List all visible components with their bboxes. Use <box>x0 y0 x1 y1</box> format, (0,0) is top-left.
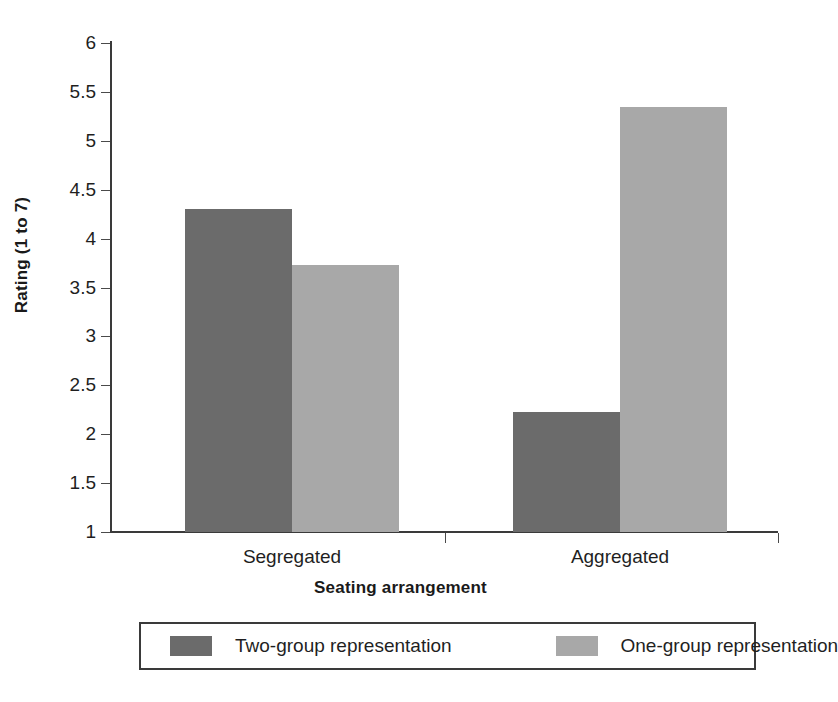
x-axis-tick <box>445 533 446 543</box>
y-axis-tick-label: 4.5 <box>36 180 96 199</box>
y-axis-tick-label: 5.5 <box>36 82 96 101</box>
legend-swatch-two-group <box>170 636 212 656</box>
y-axis-tick <box>101 434 110 435</box>
y-axis-tick-label: 6 <box>36 33 96 52</box>
y-axis-tick <box>101 385 110 386</box>
y-axis-tick-label: 3 <box>36 326 96 345</box>
y-axis-title: Rating (1 to 7) <box>12 175 32 335</box>
y-axis-tick-label: 5 <box>36 131 96 150</box>
y-axis-tick-label: 3.5 <box>36 278 96 297</box>
y-axis-tick <box>101 190 110 191</box>
bar-segregated-two-group[interactable] <box>185 209 292 532</box>
y-axis-tick <box>101 483 110 484</box>
y-axis-tick <box>101 288 110 289</box>
legend-entry-two-group[interactable]: Two-group representation <box>170 624 452 668</box>
y-axis-tick-label: 1.5 <box>36 473 96 492</box>
chart-legend: Two-group representation One-group repre… <box>139 622 756 670</box>
legend-label-one-group: One-group representation <box>621 635 838 657</box>
y-axis-tick-label: 2 <box>36 424 96 443</box>
legend-swatch-one-group <box>556 636 598 656</box>
y-axis-tick-label: 1 <box>36 522 96 541</box>
y-axis-tick-label: 2.5 <box>36 375 96 394</box>
x-axis-category-label-aggregated: Aggregated <box>500 545 740 569</box>
y-axis-tick <box>101 43 110 44</box>
y-axis-tick <box>101 336 110 337</box>
y-axis-tick-label: 4 <box>36 229 96 248</box>
plot-area <box>110 43 778 532</box>
x-axis-category-label-segregated: Segregated <box>172 545 412 569</box>
bar-aggregated-two-group[interactable] <box>513 412 620 532</box>
y-axis-tick <box>101 141 110 142</box>
x-axis-title: Seating arrangement <box>0 578 801 598</box>
x-axis-tick <box>778 533 779 543</box>
bar-segregated-one-group[interactable] <box>292 265 399 532</box>
legend-label-two-group: Two-group representation <box>235 635 452 657</box>
legend-entry-one-group[interactable]: One-group representation <box>556 624 838 668</box>
y-axis-tick <box>101 92 110 93</box>
bar-aggregated-one-group[interactable] <box>620 107 727 532</box>
y-axis-tick <box>101 239 110 240</box>
y-axis-tick <box>101 532 110 533</box>
